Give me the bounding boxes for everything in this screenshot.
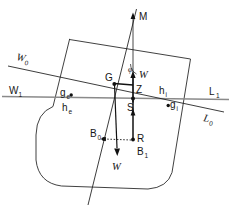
point-marker-B1 <box>131 138 135 142</box>
label-gi-subscript: i <box>177 105 178 112</box>
label-point-s: S <box>127 102 134 113</box>
label-b0-base: B <box>90 128 97 139</box>
label-gi-base: g <box>170 99 176 110</box>
stability-diagram-canvas: M φ W G Z S R B 0 B 1 W W 0 W <box>0 0 231 215</box>
label-ge-base: g <box>60 87 66 98</box>
label-b1-base: B <box>137 146 144 157</box>
point-marker-B0 <box>102 137 106 141</box>
label-l1-base: L <box>209 86 215 97</box>
label-hi-subscript: i <box>166 91 167 98</box>
label-w1-subscript: 1 <box>19 91 23 98</box>
stability-diagram: M φ W G Z S R B 0 B 1 W W 0 W <box>0 0 231 215</box>
label-he-base: h <box>62 102 68 113</box>
point-marker-G <box>112 82 116 86</box>
label-metacentre: M <box>139 11 147 22</box>
label-buoyancy-force: W <box>139 69 149 80</box>
label-heel-angle: φ <box>128 65 133 74</box>
label-hi-base: h <box>159 85 165 96</box>
label-he-subscript: e <box>69 108 73 115</box>
label-weight-force: W <box>112 161 122 172</box>
label-w1-base: W <box>9 85 19 96</box>
label-b0-subscript: 0 <box>98 134 102 141</box>
label-ge-subscript: e <box>67 93 71 100</box>
label-l1-subscript: 1 <box>216 92 220 99</box>
label-b1-subscript: 1 <box>145 152 149 159</box>
label-point-r: R <box>137 133 144 144</box>
label-centre-of-gravity: G <box>105 72 113 83</box>
label-point-z: Z <box>136 84 142 95</box>
point-marker-S <box>131 97 135 101</box>
